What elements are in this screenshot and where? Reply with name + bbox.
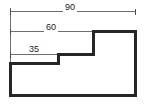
stepped-figure-diagram <box>0 0 146 106</box>
dimension-label-60: 60 <box>44 23 58 32</box>
stepped-figure-outline <box>11 32 136 96</box>
dimension-label-90: 90 <box>63 3 77 12</box>
technical-drawing-canvas: 90 60 35 <box>0 0 146 106</box>
dimension-label-35: 35 <box>27 45 41 54</box>
